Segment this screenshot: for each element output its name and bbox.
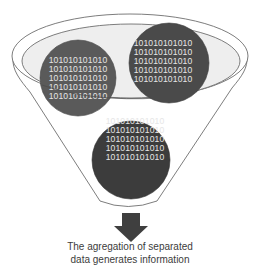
funnel-diagram: 101010101010 101010101010 101010101010 1… — [0, 0, 260, 273]
binary-line: 101010101010 — [134, 74, 193, 84]
down-arrow-icon — [114, 213, 148, 242]
data-circle-right: 101010101010 101010101010 101010101010 1… — [129, 23, 209, 103]
caption-line-2: data generates information — [0, 254, 260, 267]
binary-line: 101010101010 — [49, 91, 108, 101]
data-circle-left: 101010101010 101010101010 101010101010 1… — [40, 40, 116, 116]
binary-line: 101010101010 — [106, 152, 165, 162]
funnel-graphic: 101010101010 101010101010 101010101010 1… — [0, 0, 260, 273]
caption: The agregation of separated data generat… — [0, 241, 260, 266]
caption-line-1: The agregation of separated — [0, 241, 260, 254]
